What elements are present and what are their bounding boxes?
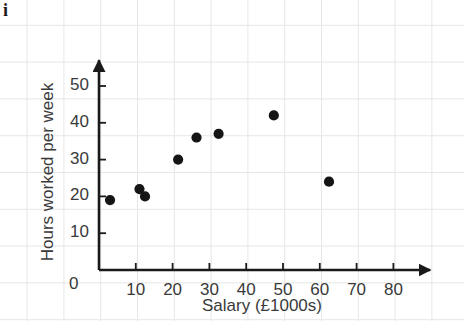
axes-group [99,60,430,270]
data-point [269,110,279,120]
data-point [105,195,115,205]
y-axis-title: Hours worked per week [38,62,58,282]
data-point [140,191,150,201]
data-point [324,177,334,187]
origin-label: 0 [69,274,78,294]
x-axis-title-text: Salary (£1000s) [202,296,322,315]
tick-marks-group [99,86,393,270]
data-point [173,155,183,165]
data-points-group [105,110,334,205]
data-point [214,129,224,139]
scatter-plot-figure: i 102030405060708010203040500 Hours work… [0,0,464,321]
x-axis-title: Salary (£1000s) [0,296,464,316]
data-point [191,132,201,142]
